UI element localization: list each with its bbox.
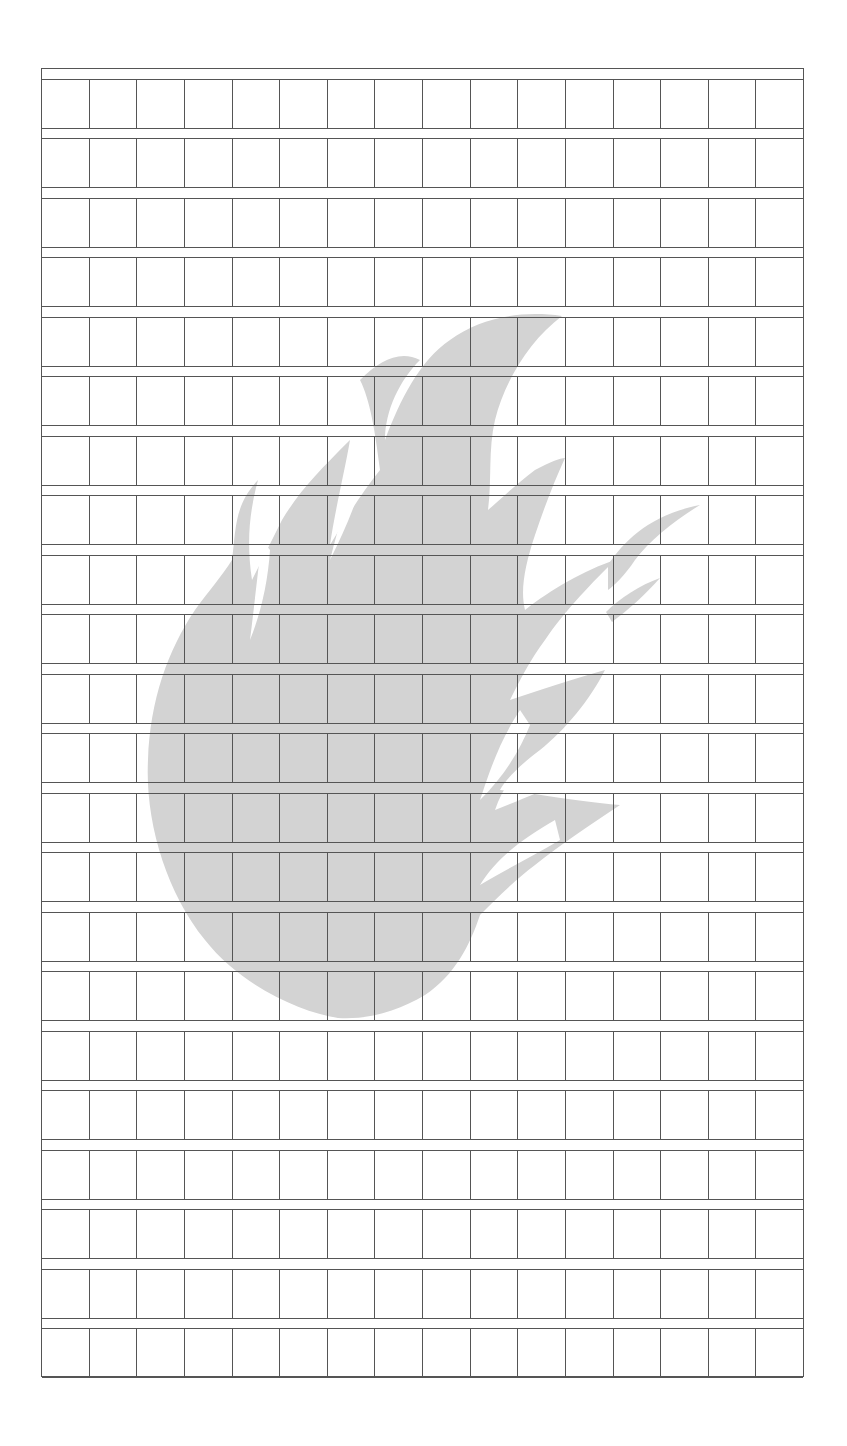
row-spacer-band	[42, 248, 803, 259]
writing-cell	[518, 80, 566, 128]
writing-cell	[756, 80, 803, 128]
writing-cell	[471, 80, 519, 128]
writing-cell	[756, 1032, 803, 1080]
writing-cell	[423, 615, 471, 663]
writing-cell	[614, 734, 662, 782]
writing-cell	[233, 734, 281, 782]
writing-cell	[185, 913, 233, 961]
writing-cell	[614, 377, 662, 425]
writing-cell	[471, 675, 519, 723]
writing-cell	[233, 972, 281, 1020]
writing-cell	[518, 1032, 566, 1080]
row-spacer-band	[42, 1259, 803, 1270]
writing-cell	[756, 853, 803, 901]
writing-cell	[423, 496, 471, 544]
writing-cell	[328, 794, 376, 842]
grid-row	[42, 426, 803, 486]
grid-row	[42, 1081, 803, 1141]
writing-cell	[756, 437, 803, 485]
writing-cell	[137, 1091, 185, 1139]
writing-cell	[423, 853, 471, 901]
writing-cell	[756, 1210, 803, 1258]
writing-cell	[375, 437, 423, 485]
writing-cell	[90, 556, 138, 604]
writing-cell	[423, 1270, 471, 1318]
writing-cell	[328, 1032, 376, 1080]
cell-row	[42, 318, 803, 367]
writing-cell	[661, 80, 709, 128]
writing-cell	[42, 972, 90, 1020]
writing-cell	[375, 1091, 423, 1139]
writing-cell	[566, 734, 614, 782]
writing-grid	[41, 68, 804, 1377]
writing-cell	[661, 556, 709, 604]
writing-cell	[756, 972, 803, 1020]
writing-cell	[518, 496, 566, 544]
grid-row	[42, 1259, 803, 1319]
writing-cell	[614, 853, 662, 901]
row-spacer-band	[42, 129, 803, 140]
writing-cell	[661, 972, 709, 1020]
writing-cell	[709, 1032, 757, 1080]
writing-cell	[233, 496, 281, 544]
writing-cell	[709, 1329, 757, 1377]
writing-cell	[471, 1329, 519, 1377]
grid-row	[42, 188, 803, 248]
writing-cell	[518, 556, 566, 604]
writing-cell	[90, 377, 138, 425]
writing-cell	[233, 913, 281, 961]
writing-cell	[137, 1032, 185, 1080]
writing-cell	[518, 318, 566, 366]
writing-cell	[661, 496, 709, 544]
writing-cell	[756, 1329, 803, 1377]
writing-cell	[756, 258, 803, 306]
writing-cell	[709, 1210, 757, 1258]
writing-cell	[614, 794, 662, 842]
writing-cell	[280, 853, 328, 901]
writing-cell	[280, 913, 328, 961]
writing-cell	[375, 913, 423, 961]
writing-cell	[566, 913, 614, 961]
row-spacer-band	[42, 486, 803, 497]
writing-cell	[90, 1210, 138, 1258]
writing-cell	[185, 1270, 233, 1318]
writing-cell	[185, 1032, 233, 1080]
writing-cell	[756, 615, 803, 663]
writing-cell	[328, 853, 376, 901]
writing-cell	[518, 437, 566, 485]
writing-cell	[137, 80, 185, 128]
writing-cell	[90, 1151, 138, 1199]
cell-row	[42, 615, 803, 664]
writing-cell	[471, 853, 519, 901]
cell-row	[42, 734, 803, 783]
writing-cell	[709, 377, 757, 425]
writing-cell	[471, 734, 519, 782]
writing-cell	[518, 972, 566, 1020]
writing-cell	[90, 1091, 138, 1139]
writing-cell	[423, 1151, 471, 1199]
cell-row	[42, 913, 803, 962]
writing-cell	[566, 437, 614, 485]
writing-cell	[137, 1329, 185, 1377]
writing-cell	[471, 1270, 519, 1318]
writing-cell	[233, 794, 281, 842]
writing-cell	[756, 199, 803, 247]
writing-cell	[518, 199, 566, 247]
row-spacer-band	[42, 724, 803, 735]
writing-cell	[233, 1091, 281, 1139]
writing-cell	[42, 1032, 90, 1080]
writing-cell	[375, 556, 423, 604]
writing-cell	[185, 258, 233, 306]
writing-cell	[614, 258, 662, 306]
writing-cell	[756, 675, 803, 723]
writing-cell	[471, 1151, 519, 1199]
writing-cell	[90, 734, 138, 782]
writing-cell	[566, 1032, 614, 1080]
writing-cell	[614, 1151, 662, 1199]
writing-cell	[233, 1270, 281, 1318]
writing-cell	[233, 377, 281, 425]
writing-cell	[756, 377, 803, 425]
writing-cell	[566, 258, 614, 306]
writing-cell	[90, 675, 138, 723]
writing-cell	[566, 1091, 614, 1139]
